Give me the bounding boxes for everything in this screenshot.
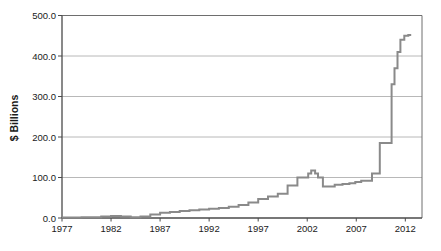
y-tick-label: 400.0 [14,51,56,62]
x-tick-label: 1997 [241,223,275,234]
x-tick-label: 1977 [45,223,79,234]
chart-canvas [0,0,441,251]
x-tick-label: 2007 [339,223,373,234]
x-tick-label: 1982 [94,223,128,234]
x-tick-label: 2002 [290,223,324,234]
x-tick-label: 1992 [192,223,226,234]
x-tick-label: 2012 [388,223,422,234]
y-tick-label: 100.0 [14,172,56,183]
y-tick-label: 200.0 [14,132,56,143]
y-tick-label: 0.0 [14,213,56,224]
y-tick-label: 300.0 [14,91,56,102]
y-tick-label: 500.0 [14,10,56,21]
step-line-chart: $ Billions 0.0100.0200.0300.0400.0500.01… [0,0,441,251]
x-tick-label: 1987 [143,223,177,234]
data-series-line [62,35,411,218]
